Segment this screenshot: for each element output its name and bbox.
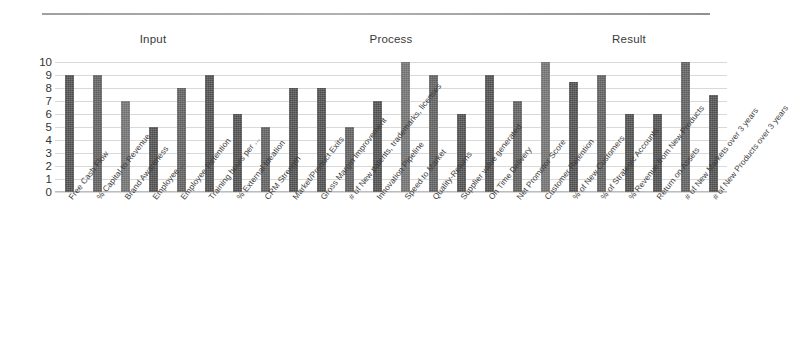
y-axis-tick-label: 9 [30,69,52,81]
bar [121,101,130,192]
bar [289,88,298,192]
y-axis-tick-label: 2 [30,160,52,172]
gridline [55,101,727,102]
x-axis-labels: Free Cash Flow% Capital to RevenueBrand … [55,196,745,336]
y-axis-tick-label: 7 [30,95,52,107]
y-axis-tick-label: 1 [30,173,52,185]
gridline [55,75,727,76]
y-axis: 012345678910 [28,62,52,192]
group-header-process: Process [370,33,413,45]
bar [317,88,326,192]
bar [65,75,74,192]
bar [709,95,718,193]
y-axis-tick-label: 4 [30,134,52,146]
y-axis-tick-label: 6 [30,108,52,120]
top-divider-rule [42,13,710,15]
bar [513,101,522,192]
group-header-result: Result [612,33,646,45]
group-header-input: Input [140,33,167,45]
gridline [55,62,727,63]
y-axis-tick-label: 0 [30,186,52,198]
bar [177,88,186,192]
bar [373,101,382,192]
y-axis-tick-label: 8 [30,82,52,94]
gridline [55,88,727,89]
y-axis-tick-label: 10 [30,56,52,68]
y-axis-tick-label: 5 [30,121,52,133]
y-axis-tick-label: 3 [30,147,52,159]
